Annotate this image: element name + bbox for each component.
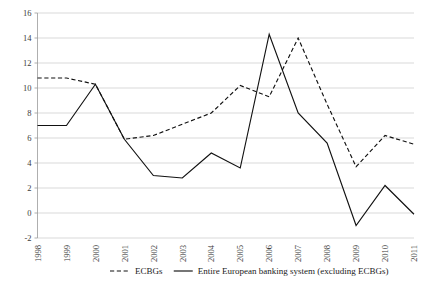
y-axis-tick-labels: -20246810121416 (23, 8, 38, 243)
x-tick-label: 2003 (178, 245, 188, 262)
y-tick-label: 2 (27, 183, 31, 193)
x-tick-label: 2007 (293, 245, 303, 262)
x-axis-tick-labels: 1998199920002001200220032004200520062007… (33, 244, 420, 262)
x-tick-label: 2001 (120, 245, 130, 262)
chart-container: -20246810121416 199819992000200120022003… (0, 0, 421, 289)
x-tick-label: 1998 (33, 245, 43, 262)
x-tick-label: 2000 (91, 245, 101, 262)
line-chart: -20246810121416 199819992000200120022003… (0, 0, 421, 289)
y-tick-label: 14 (23, 33, 32, 43)
y-tick-label: 0 (27, 208, 31, 218)
y-tick-label: -2 (24, 233, 31, 243)
x-tick-label: 2006 (264, 245, 274, 262)
series-line-ecbgs (38, 38, 415, 167)
x-tick-label: 2005 (235, 245, 245, 262)
x-tick-label: 2011 (409, 245, 419, 262)
y-tick-label: 10 (23, 83, 32, 93)
x-tick-label: 1999 (62, 245, 72, 262)
y-tick-label: 4 (27, 158, 32, 168)
legend-label: Entire European banking system (excludin… (198, 266, 389, 276)
y-tick-label: 16 (23, 8, 32, 18)
y-tick-label: 12 (23, 58, 32, 68)
x-tick-label: 2004 (206, 244, 216, 262)
x-tick-label: 2008 (322, 245, 332, 262)
y-tick-label: 8 (27, 108, 31, 118)
x-tick-label: 2010 (380, 245, 390, 262)
gridline-group (38, 13, 415, 238)
y-tick-label: 6 (27, 133, 31, 143)
x-tick-label: 2009 (351, 245, 361, 262)
legend-label: ECBGs (135, 266, 163, 276)
chart-legend: ECBGsEntire European banking system (exc… (110, 266, 388, 276)
x-tick-label: 2002 (149, 245, 159, 262)
